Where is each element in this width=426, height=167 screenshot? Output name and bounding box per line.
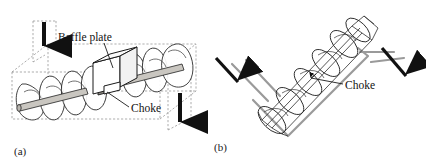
panel-b-drawing [216,14,406,138]
panel-b-discharge-elbow [352,16,378,40]
panel-b-inlet-arrow [216,58,238,82]
panel-b-caption: (b) [214,141,227,153]
choke-label-panel-a: Choke [131,102,161,114]
baffle-plate-label: Baffle plate [58,31,112,43]
choke-label-panel-b: Choke [345,79,375,91]
panel-a-caption: (a) [14,145,26,157]
figure-container: Baffle plate Choke Choke (a) (b) [0,0,426,167]
